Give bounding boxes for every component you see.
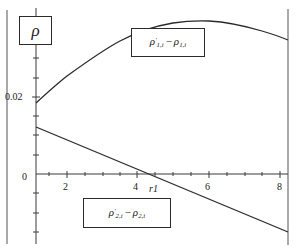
legend-lower-expression: ρ'2,i−ρ2,i xyxy=(109,207,145,220)
y-axis-tick-label-0: 0 xyxy=(22,172,27,182)
x-axis-title: r1 xyxy=(149,184,158,194)
legend-lower-subscript-left: 2,i xyxy=(116,212,123,219)
legend-upper-subscript-right: 1,i xyxy=(179,41,186,48)
legend-upper-minus: − xyxy=(164,35,174,47)
x-axis-tick-label-8: 8 xyxy=(277,182,282,192)
legend-lower-subscript-right: 2,i xyxy=(138,212,145,219)
y-axis-label-text: ρ xyxy=(31,22,39,39)
legend-upper-subscript-left: 1,i xyxy=(157,41,164,48)
y-axis-tick-label-0.02: 0.02 xyxy=(5,92,23,102)
legend-box-upper: ρ'1,i−ρ1,i xyxy=(131,28,205,57)
chart-figure: ρ ρ'1,i−ρ1,i ρ'2,i−ρ2,i 0.02 0 2 4 6 8 r… xyxy=(0,0,300,248)
legend-upper-expression: ρ'1,i−ρ1,i xyxy=(150,36,186,49)
legend-box-lower: ρ'2,i−ρ2,i xyxy=(83,198,171,228)
x-axis-tick-label-6: 6 xyxy=(205,182,210,192)
x-axis-tick-label-2: 2 xyxy=(63,182,68,192)
y-axis-label-box: ρ xyxy=(19,16,52,45)
legend-lower-minus: − xyxy=(123,206,133,218)
x-axis-tick-label-4: 4 xyxy=(133,182,138,192)
